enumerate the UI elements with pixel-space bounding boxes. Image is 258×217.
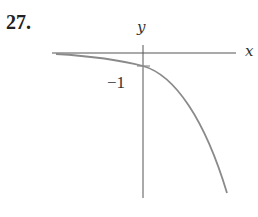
plot-area [0,0,258,217]
function-curve [56,54,227,193]
